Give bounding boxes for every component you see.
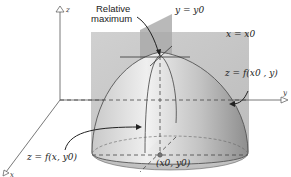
trace-y0-label: z = f(x, y0) [26, 152, 77, 162]
paraboloid-diagram: Relative maximum y = y0 x = x0 z = f(x0 … [0, 0, 291, 177]
plane-x-label: x = x0 [226, 29, 255, 39]
x-axis-label: x [10, 171, 14, 177]
z-axis-label: z [65, 6, 70, 14]
relative-maximum-label-line2: maximum [91, 13, 132, 24]
plane-y-label: y = y0 [174, 5, 204, 15]
z-axis-arrow-icon [56, 6, 64, 12]
y-axis-label: y [282, 89, 288, 97]
x-axis-arrow-icon [3, 170, 9, 176]
trace-x0-label: z = f(x0 , y) [224, 68, 278, 78]
point-label: (x0, y0) [156, 158, 191, 168]
y-axis-arrow-icon [281, 97, 288, 103]
point-x0-y0 [158, 153, 162, 157]
